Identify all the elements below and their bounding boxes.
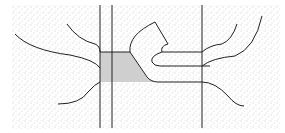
diagram: [0, 0, 285, 133]
stipple-background: [12, 5, 280, 129]
diagram-canvas: [0, 0, 285, 133]
